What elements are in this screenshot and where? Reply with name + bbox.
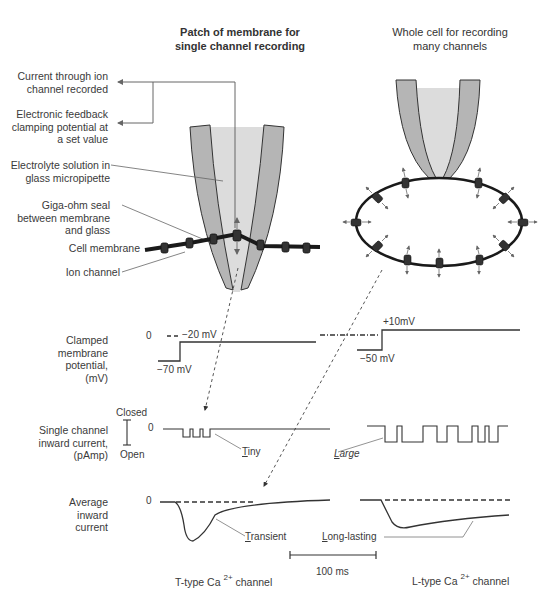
scale-bar bbox=[290, 551, 376, 559]
label-feedback: Electronic feedback clamping potential a… bbox=[0, 108, 108, 146]
label-average-current: Average inward current bbox=[0, 496, 108, 534]
label-ion-channel: Ion channel bbox=[0, 266, 120, 279]
label-single-channel: Single channel inward current, (pAmp) bbox=[0, 424, 108, 462]
open-label: Open bbox=[120, 449, 144, 462]
single-channel-trace bbox=[123, 420, 508, 452]
whole-cell-pipette bbox=[396, 80, 480, 178]
transient-label: Transient bbox=[245, 531, 286, 544]
large-label: Large bbox=[334, 448, 360, 461]
scale-bar-label: 100 ms bbox=[316, 566, 349, 579]
single-zero: 0 bbox=[148, 422, 154, 435]
t-hold-voltage: −70 mV bbox=[157, 364, 192, 377]
label-seal: Giga-ohm seal between membrane and glass bbox=[0, 199, 110, 237]
long-lasting-label: Long-lasting bbox=[322, 531, 376, 544]
title-patch: Patch of membrane for single channel rec… bbox=[160, 25, 320, 53]
tiny-label: Tiny bbox=[242, 446, 261, 459]
title-whole-cell: Whole cell for recording many channels bbox=[370, 25, 530, 53]
t-type-channel-label: T-type Ca 2+ channel bbox=[175, 572, 272, 589]
label-cell-membrane: Cell membrane bbox=[0, 242, 140, 255]
whole-cell bbox=[343, 168, 537, 277]
t-step-voltage: −20 mV bbox=[182, 329, 217, 342]
closed-label: Closed bbox=[116, 407, 147, 420]
l-hold-voltage: −50 mV bbox=[360, 353, 395, 366]
label-current-recorded: Current through ion channel recorded bbox=[0, 70, 108, 95]
label-electrolyte: Electrolyte solution in glass micropipet… bbox=[0, 159, 110, 184]
patch-pipette bbox=[190, 125, 284, 292]
clamped-zero: 0 bbox=[146, 330, 152, 343]
l-step-voltage: +10mV bbox=[383, 316, 415, 329]
average-zero: 0 bbox=[146, 495, 152, 508]
l-type-channel-label: L-type Ca 2+ channel bbox=[412, 571, 509, 588]
label-clamped-potential: Clamped membrane potential, (mV) bbox=[0, 334, 108, 384]
